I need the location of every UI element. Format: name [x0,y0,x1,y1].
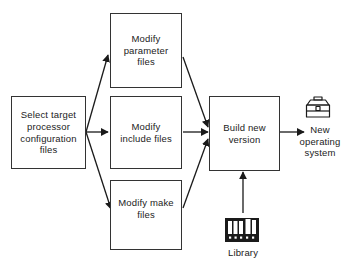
node-select-label: Select target processor configuration fi… [14,109,82,155]
node-build-line-1: Build new [220,122,269,134]
edge-select-to-parameter [86,55,108,132]
node-include-label: Modify include files [114,121,178,144]
node-make-line-2: files [115,209,177,221]
node-select-line-2: processor [17,121,79,133]
edge-select-to-make [86,132,111,209]
node-make-label: Modify make files [112,197,180,220]
node-modify-parameter-files[interactable]: Modify parameter files [110,13,182,88]
node-modify-make-files[interactable]: Modify make files [110,180,182,250]
node-select-target-configuration-files[interactable]: Select target processor configuration fi… [11,96,86,169]
node-make-line-1: Modify make [115,197,177,209]
flowchart-diagram: Select target processor configuration fi… [0,0,356,269]
node-build-line-2: version [220,134,269,146]
node-include-line-2: include files [117,133,175,145]
newos-line-1: New [310,124,329,135]
node-parameter-line-1: Modify [121,33,172,45]
node-parameter-line-2: parameter [121,45,172,57]
newos-line-3: system [305,147,336,158]
label-library: Library [215,247,271,259]
node-parameter-label: Modify parameter files [118,33,175,68]
toolbox-icon [300,92,336,120]
newos-line-2: operating [300,136,341,147]
node-select-line-1: Select target [17,109,79,121]
library-line-1: Library [228,247,258,258]
node-parameter-line-3: files [121,56,172,68]
edge-make-to-build [183,139,208,208]
node-select-line-3: configuration [17,133,79,145]
books-icon [224,216,262,244]
node-build-label: Build new version [217,122,272,145]
edge-parameter-to-build [183,57,208,127]
node-build-new-version[interactable]: Build new version [209,96,280,171]
node-include-line-1: Modify [117,121,175,133]
label-new-operating-system: New operating system [292,124,348,159]
node-modify-include-files[interactable]: Modify include files [110,96,182,169]
node-select-line-4: files [17,144,79,156]
